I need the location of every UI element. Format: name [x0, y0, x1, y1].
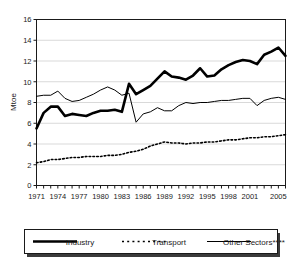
- legend-label: Transport: [152, 238, 187, 247]
- legend-label: Other Sectors****: [223, 238, 285, 247]
- y-tick-label: 0: [27, 181, 31, 190]
- y-tick-label: 10: [23, 78, 31, 87]
- legend-items: IndustryTransportOther Sectors****: [33, 238, 285, 247]
- x-tick-label: 1977: [71, 192, 88, 201]
- y-tick-label: 16: [23, 15, 31, 24]
- x-tick-label: 1992: [178, 192, 195, 201]
- y-axis-title: Mtoe: [9, 93, 18, 111]
- x-tick-label: 1986: [135, 192, 152, 201]
- x-tick-label: 1998: [220, 192, 237, 201]
- x-tick-label: 1983: [114, 192, 131, 201]
- y-tick-label: 6: [27, 119, 31, 128]
- legend-label: Industry: [66, 238, 94, 247]
- y-tick-label: 12: [23, 57, 31, 66]
- x-tick-label: 1989: [156, 192, 173, 201]
- x-tick-label: 2005: [270, 192, 287, 201]
- chart-figure: 0246810121416 19711974197719801983198619…: [0, 0, 302, 270]
- x-tick-label: 1995: [199, 192, 216, 201]
- chart-legend: IndustryTransportOther Sectors****: [25, 230, 285, 258]
- x-tick-label: 1980: [92, 192, 109, 201]
- y-tick-label: 4: [27, 140, 31, 149]
- y-tick-label: 8: [27, 98, 31, 107]
- x-tick-label: 2001: [242, 192, 259, 201]
- y-tick-label: 2: [27, 161, 31, 170]
- x-tick-label: 1971: [28, 192, 45, 201]
- y-tick-label: 14: [23, 36, 31, 45]
- x-tick-label: 1974: [49, 192, 66, 201]
